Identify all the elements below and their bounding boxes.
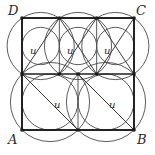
node-mid-right <box>132 72 136 76</box>
vertex-label-b: B <box>137 133 147 146</box>
side-label-u-5: u <box>109 100 115 110</box>
vertex-label-a: A <box>8 133 17 146</box>
node-mid-2 <box>95 72 99 76</box>
node-mid-left <box>20 72 24 76</box>
side-label-u-3: u <box>104 46 110 56</box>
node-mid-center <box>76 72 80 76</box>
vertex-label-c: C <box>136 4 146 17</box>
node-vertex-a <box>20 128 24 132</box>
side-label-u-2: u <box>67 46 73 56</box>
node-vertex-b <box>132 128 136 132</box>
node-mid-1 <box>58 72 62 76</box>
node-top-1 <box>58 16 62 20</box>
vertex-label-d: D <box>8 4 18 17</box>
diagonal-top-1 <box>22 18 59 74</box>
side-label-u-1: u <box>30 46 36 56</box>
node-top-2 <box>95 16 99 20</box>
node-bottom-mid <box>76 128 80 132</box>
node-vertex-d <box>20 16 24 20</box>
side-label-u-4: u <box>54 100 60 110</box>
geometry-canvas <box>0 0 155 155</box>
geometry-figure: D C A B u u u u u <box>0 0 155 155</box>
